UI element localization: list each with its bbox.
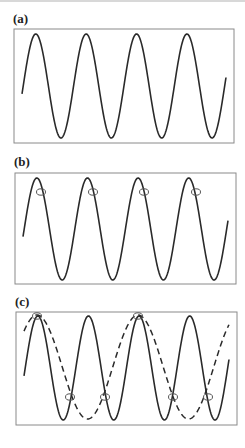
panel-b <box>15 173 236 284</box>
sample-marker-1 <box>37 189 46 195</box>
sample-markers <box>37 189 201 195</box>
figure-canvas <box>0 0 245 448</box>
sine-wave-solid <box>23 178 228 280</box>
panel-a <box>14 29 234 143</box>
sine-wave-solid <box>22 34 226 138</box>
panel-c <box>16 312 237 425</box>
sine-wave-solid <box>24 316 229 420</box>
